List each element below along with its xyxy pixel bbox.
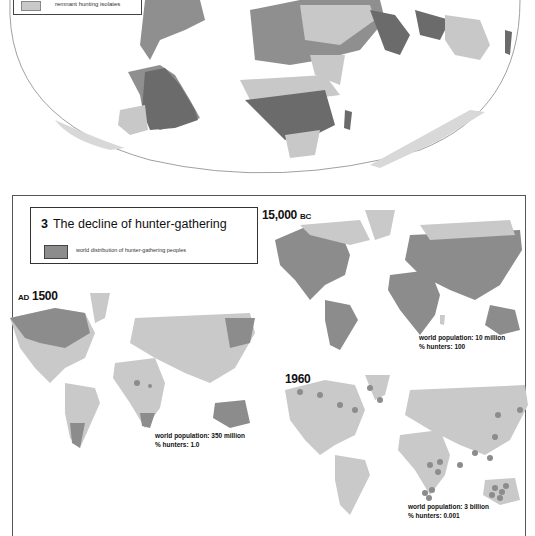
hunters-ad1500: % hunters: 1.0	[155, 440, 245, 449]
hunters-1960: % hunters: 0.001	[408, 511, 489, 520]
panel-title: 3The decline of hunter-gathering	[41, 217, 227, 231]
population-ad1500: world population: 350 million	[155, 431, 245, 440]
stats-ad1500: world population: 350 million % hunters:…	[155, 431, 245, 449]
legend-swatch-hunter	[44, 245, 68, 259]
top-map-legend: remnant hunting isolates	[13, 0, 142, 15]
stats-1960: world population: 3 billion % hunters: 0…	[408, 502, 489, 520]
legend-label-hunter: world distribution of hunter-gathering p…	[76, 247, 186, 253]
population-15000bc: world population: 10 million	[419, 333, 505, 342]
top-world-map	[0, 0, 535, 180]
map-1960	[280, 370, 530, 520]
legend-swatch-remnant	[21, 1, 41, 11]
panel-title-text: The decline of hunter-gathering	[53, 217, 227, 231]
panel-title-box: 3The decline of hunter-gathering world d…	[30, 207, 258, 264]
stats-15000bc: world population: 10 million % hunters: …	[419, 333, 505, 351]
hunters-15000bc: % hunters: 100	[419, 342, 505, 351]
legend-label-remnant: remnant hunting isolates	[55, 1, 120, 7]
population-1960: world population: 3 billion	[408, 502, 489, 511]
panel-number: 3	[41, 217, 48, 231]
